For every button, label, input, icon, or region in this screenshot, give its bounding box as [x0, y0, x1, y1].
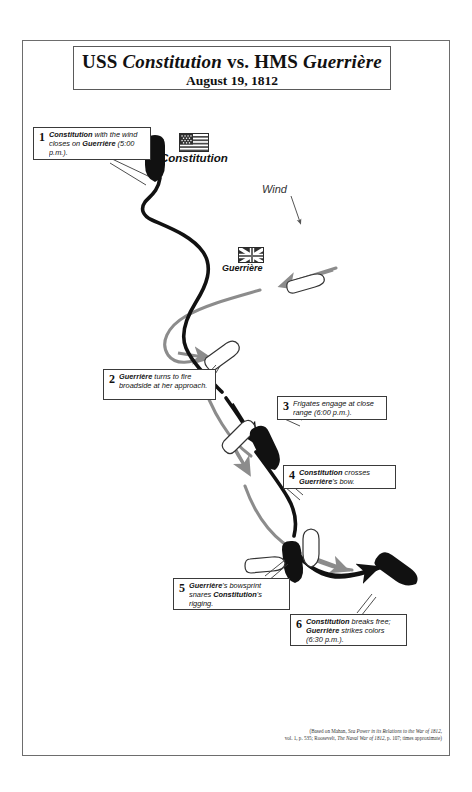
ship-guerriere-2 [205, 341, 240, 370]
wind-label: Wind [262, 183, 287, 195]
callout-2: 2 Guerrière turns to fire broadside at h… [103, 369, 216, 400]
citation-line1-title: Sea Power in its Relations to the War of… [348, 728, 441, 734]
callout-3: 3 Frigates engage at close range (6:00 p… [277, 396, 387, 420]
callout-4-number: 4 [289, 470, 295, 481]
source-citation: (Based on Mahan, Sea Power in its Relati… [180, 728, 442, 741]
citation-line2-title: The Naval War of 1812 [337, 735, 384, 741]
ship-label-guerriere: Guerrière [222, 263, 263, 273]
ship-guerriere-4 [303, 529, 319, 567]
callout-2-text: Guerrière turns to fire broadside at her… [119, 373, 210, 391]
callout-4-text: Constitution crosses Guerrière's bow. [299, 469, 390, 487]
callout-5-number: 5 [179, 583, 185, 594]
callout-5-text: Guerrière's bowsprint snares Constitutio… [189, 582, 284, 609]
callout-3-text: Frigates engage at close range (6:00 p.m… [293, 400, 381, 418]
callout-4: 4 Constitution crosses Guerrière's bow. [283, 465, 396, 489]
callout-3-number: 3 [283, 401, 289, 412]
callout-6-number: 6 [296, 619, 302, 630]
citation-line1-a: (Based on Mahan, [309, 728, 347, 734]
callout-1-text: Constitution with the wind closes on Gue… [49, 131, 145, 158]
ship-constitution-4 [375, 552, 418, 585]
callout-5: 5 Guerrière's bowsprint snares Constitut… [173, 578, 290, 610]
citation-line1-b: , [441, 728, 442, 734]
united-states-flag [179, 133, 209, 152]
callout-2-number: 2 [109, 374, 115, 385]
union-jack-flag [238, 247, 264, 263]
battle-track-map [0, 0, 472, 792]
citation-line2-a: vol. 1, p. 535; Roosevelt, [285, 735, 338, 741]
wind-arrow [291, 196, 300, 222]
callout-1: 1 Constitution with the wind closes on G… [33, 127, 151, 160]
callout-1-number: 1 [39, 132, 45, 143]
ship-guerriere-1 [287, 274, 325, 293]
ship-label-constitution: Constitution [160, 152, 228, 164]
citation-line2-b: , p. 107; times approximate) [385, 735, 442, 741]
callout-6-text: Constitution breaks free; Guerrière stri… [306, 618, 401, 645]
ship-constitution-2 [250, 426, 280, 470]
callout-6: 6 Constitution breaks free; Guerrière st… [290, 614, 407, 646]
ship-guerriere-3 [222, 420, 255, 453]
